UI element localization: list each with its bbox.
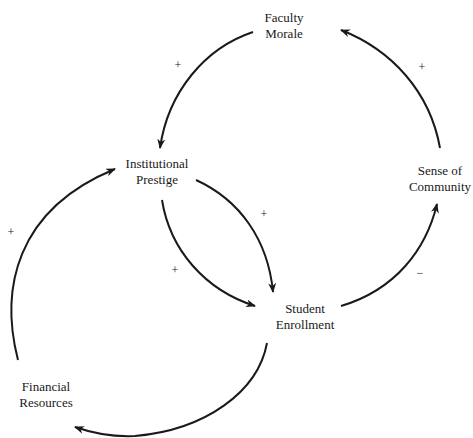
node-financial-resources: Financial Resources: [19, 379, 72, 411]
node-label-line: Institutional: [126, 156, 189, 172]
node-label-line: Prestige: [126, 172, 189, 188]
node-label-line: Morale: [265, 26, 304, 42]
node-label-line: Financial: [19, 379, 72, 395]
edge-sign-prestige-to-enrollment-lower: +: [172, 264, 179, 276]
edge-financial-resources-to-institutional-prestige: [11, 169, 115, 360]
edge-enrollment-to-financial-resources: [75, 343, 267, 436]
edge-sign-community-to-faculty: +: [419, 61, 426, 73]
node-institutional-prestige: Institutional Prestige: [126, 156, 189, 188]
edge-prestige-to-enrollment-upper: [196, 180, 273, 292]
node-label-line: Faculty: [265, 10, 304, 26]
node-label-line: Student: [276, 301, 335, 317]
causal-loop-diagram: Faculty Morale Institutional Prestige Se…: [0, 0, 473, 438]
edge-faculty-morale-to-institutional-prestige: [160, 32, 253, 148]
node-label-line: Resources: [19, 395, 72, 411]
node-sense-of-community: Sense of Community: [409, 163, 471, 195]
node-faculty-morale: Faculty Morale: [265, 10, 304, 42]
node-label-line: Enrollment: [276, 317, 335, 333]
node-label-line: Sense of: [409, 163, 471, 179]
edge-sign-enrollment-to-community: −: [417, 267, 424, 279]
node-student-enrollment: Student Enrollment: [276, 301, 335, 333]
edge-sign-faculty-to-prestige: +: [175, 59, 182, 71]
edge-prestige-to-enrollment-lower: [162, 200, 255, 306]
edge-sign-financial-to-prestige: +: [8, 226, 15, 238]
edge-sense-of-community-to-faculty-morale: [341, 30, 440, 148]
node-label-line: Community: [409, 179, 471, 195]
edge-enrollment-to-sense-of-community: [341, 204, 437, 306]
edge-sign-prestige-to-enrollment-upper: +: [261, 208, 268, 220]
edge-layer: [0, 0, 473, 438]
